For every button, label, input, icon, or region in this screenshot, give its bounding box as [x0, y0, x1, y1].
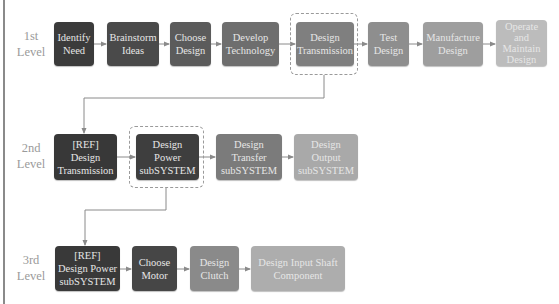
node-manufacture-design[interactable]: Manufacture Design [423, 22, 483, 66]
node-ref-design-power-subsystem[interactable]: [REF] Design Power subSYSTEM [55, 246, 120, 291]
node-choose-motor[interactable]: Choose Motor [132, 246, 177, 291]
node-design-input-shaft-component[interactable]: Design Input Shaft Component [251, 246, 345, 291]
node-design-output-subsystem[interactable]: Design Output subSYSTEM [294, 134, 358, 180]
node-ref-design-transmission[interactable]: [REF] Design Transmission [54, 134, 117, 180]
node-brainstorm-ideas[interactable]: Brainstorm Ideas [107, 22, 159, 66]
node-operate-maintain-design[interactable]: Operate and Maintain Design [496, 20, 547, 66]
node-design-transfer-subsystem[interactable]: Design Transfer subSYSTEM [216, 134, 282, 180]
node-develop-technology[interactable]: Develop Technology [222, 22, 279, 66]
node-identify-need[interactable]: Identify Need [54, 22, 94, 66]
node-design-power-subsystem[interactable]: Design Power subSYSTEM [136, 134, 199, 180]
node-design-transmission[interactable]: Design Transmission [296, 22, 354, 66]
node-choose-design[interactable]: Choose Design [170, 22, 211, 66]
node-test-design[interactable]: Test Design [368, 22, 409, 66]
node-design-clutch[interactable]: Design Clutch [190, 246, 239, 291]
